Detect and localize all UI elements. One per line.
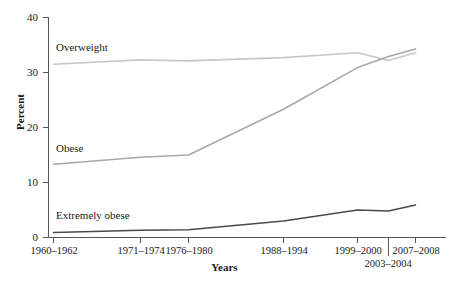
chart-container: Percent 40 30 20 10 0 1960–1962 1971–197…	[0, 0, 449, 283]
y-axis-title: Percent	[14, 72, 26, 152]
series-label-obese: Obese	[56, 142, 84, 154]
x-tick-label-1960-1962: 1960–1962	[10, 245, 98, 256]
x-axis-ticks	[54, 238, 416, 244]
y-tick-label-30: 30	[14, 66, 38, 78]
series-line-overweight	[54, 53, 416, 65]
series-label-overweight: Overweight	[56, 41, 108, 53]
y-tick-label-10: 10	[14, 176, 38, 188]
x-tick-label-2007-2008: 2007–2008	[372, 245, 449, 256]
y-tick-label-20: 20	[14, 121, 38, 133]
series-line-obese	[54, 49, 416, 164]
y-tick-label-0: 0	[14, 231, 38, 243]
x-tick-label-1976-1980: 1976–1980	[145, 245, 233, 256]
series-label-extremely-obese: Extremely obese	[56, 209, 130, 221]
y-tick-label-40: 40	[14, 11, 38, 23]
x-axis-title: Years	[0, 261, 449, 273]
y-axis-ticks	[43, 18, 49, 238]
